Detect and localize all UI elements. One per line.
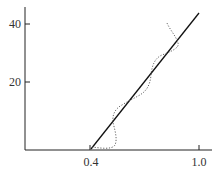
y-tick-label-20: 20 [9, 75, 21, 89]
oscillating-dotted-curve [92, 23, 178, 148]
y-tick-label-40: 40 [9, 17, 21, 31]
linear-fit-line [91, 13, 199, 149]
x-tick-label-1.0: 1.0 [192, 155, 207, 169]
x-tick-label-0.4: 0.4 [84, 155, 99, 169]
chart: 40 20 0.4 1.0 [0, 0, 217, 170]
